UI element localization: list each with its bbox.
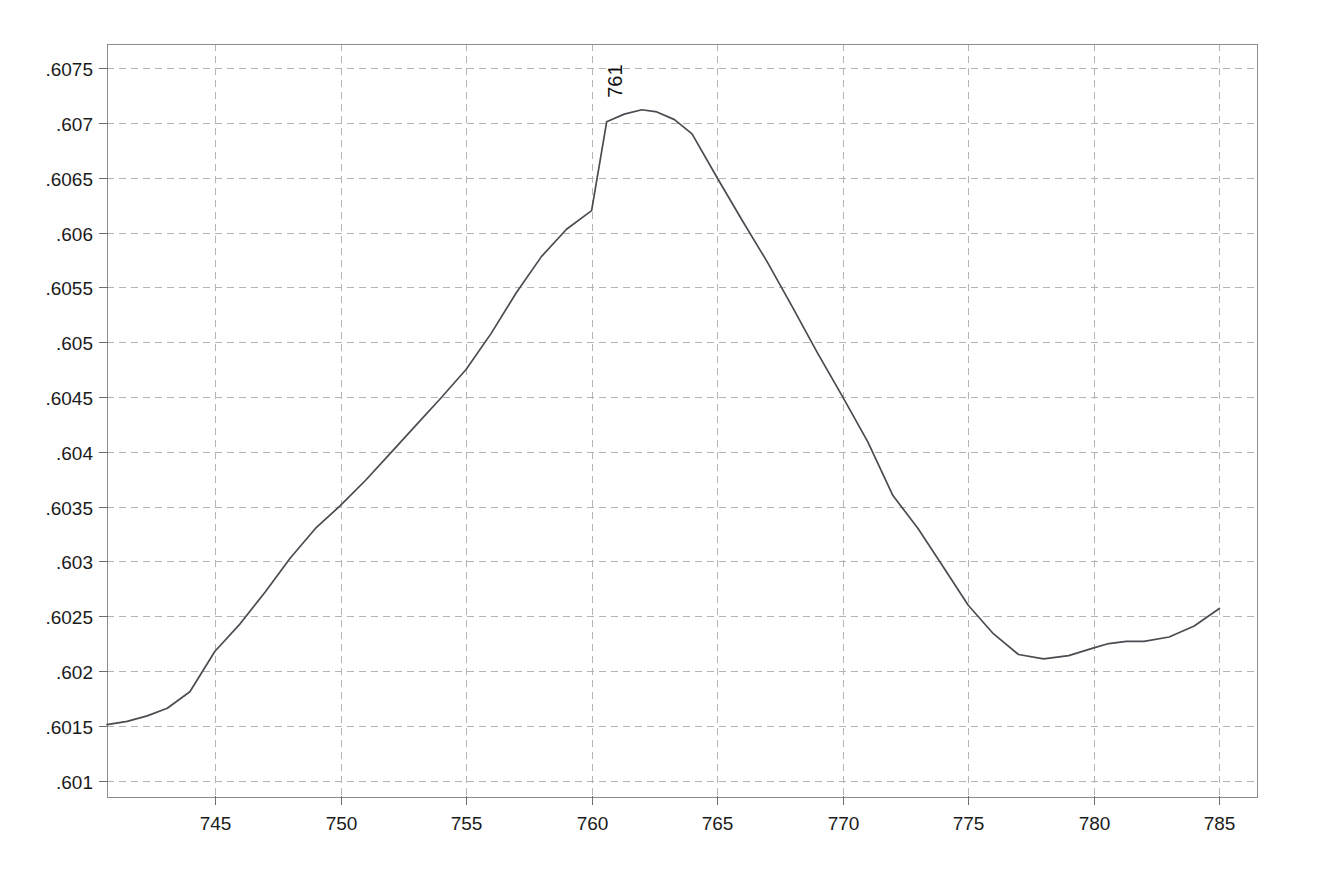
x-tick-label-2: 755: [451, 813, 483, 834]
x-tick-label-0: 745: [200, 813, 232, 834]
y-tick-label-8: .6035: [45, 498, 93, 519]
y-tick-label-10: .6025: [45, 607, 93, 628]
chart-annotations: 761: [604, 64, 626, 97]
x-tick-label-3: 760: [577, 813, 609, 834]
x-axis-tick-labels: 745750755760765770775780785: [200, 813, 1236, 834]
y-tick-label-6: .6045: [45, 388, 93, 409]
chart-figure: .6075.607.6065.606.6055.605.6045.604.603…: [0, 0, 1318, 880]
x-tick-label-1: 750: [326, 813, 358, 834]
y-tick-label-13: .601: [56, 772, 93, 793]
x-tick-label-4: 765: [702, 813, 734, 834]
y-tick-label-12: .6015: [45, 717, 93, 738]
y-tick-label-3: .606: [56, 224, 93, 245]
y-tick-label-11: .602: [56, 662, 93, 683]
y-tick-label-9: .603: [56, 552, 93, 573]
x-tick-label-8: 785: [1204, 813, 1236, 834]
x-tick-label-5: 770: [828, 813, 860, 834]
y-tick-label-1: .607: [56, 114, 93, 135]
peak-label-761: 761: [604, 64, 626, 97]
x-tick-label-6: 775: [953, 813, 985, 834]
chart-background: [0, 0, 1318, 880]
y-tick-label-0: .6075: [45, 59, 93, 80]
line-chart: .6075.607.6065.606.6055.605.6045.604.603…: [0, 0, 1318, 880]
x-tick-label-7: 780: [1079, 813, 1111, 834]
y-tick-label-2: .6065: [45, 169, 93, 190]
y-tick-label-7: .604: [56, 443, 93, 464]
y-tick-label-4: .6055: [45, 278, 93, 299]
y-tick-label-5: .605: [56, 333, 93, 354]
